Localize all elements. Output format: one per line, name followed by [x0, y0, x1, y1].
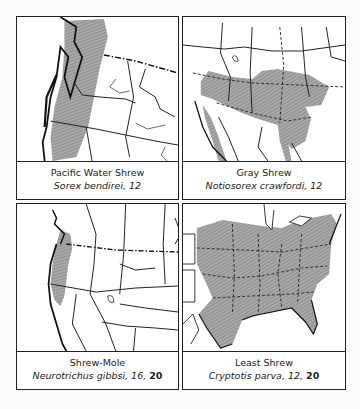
- page-reference: 12: [129, 180, 141, 191]
- caption-least-shrew: Least Shrew Cryptotis parva, 12, 20: [183, 349, 345, 389]
- map-panel-gray-shrew: Gray Shrew Notiosorex crawfordi, 12: [182, 16, 346, 200]
- scientific-name: Notiosorex crawfordi: [206, 180, 305, 191]
- range-map-pacific-water-shrew: [17, 17, 178, 162]
- common-name: Gray Shrew: [183, 167, 345, 179]
- common-name: Shrew-Mole: [17, 357, 178, 369]
- page-reference: 12: [310, 180, 322, 191]
- common-name: Pacific Water Shrew: [17, 167, 178, 179]
- caption-shrew-mole: Shrew-Mole Neurotrichus gibbsi, 16, 20: [17, 349, 178, 389]
- plate-reference: 20: [306, 370, 319, 381]
- range-map-shrew-mole: [17, 204, 178, 352]
- scientific-name-line: Neurotrichus gibbsi, 16, 20: [17, 369, 178, 382]
- scientific-name-line: Cryptotis parva, 12, 20: [183, 369, 345, 382]
- map-panel-pacific-water-shrew: Pacific Water Shrew Sorex bendirei, 12: [16, 16, 179, 200]
- caption-gray-shrew: Gray Shrew Notiosorex crawfordi, 12: [183, 159, 345, 199]
- page-reference: 16: [131, 370, 143, 381]
- page-reference: 12: [288, 370, 300, 381]
- scientific-name-line: Notiosorex crawfordi, 12: [183, 179, 345, 192]
- caption-pacific-water-shrew: Pacific Water Shrew Sorex bendirei, 12: [17, 159, 178, 199]
- scientific-name: Cryptotis parva: [209, 370, 282, 381]
- range-map-least-shrew: [183, 204, 345, 352]
- scientific-name-line: Sorex bendirei, 12: [17, 179, 178, 192]
- scientific-name: Neurotrichus gibbsi: [33, 370, 126, 381]
- map-panel-least-shrew: Least Shrew Cryptotis parva, 12, 20: [182, 203, 346, 390]
- map-panel-shrew-mole: Shrew-Mole Neurotrichus gibbsi, 16, 20: [16, 203, 179, 390]
- common-name: Least Shrew: [183, 357, 345, 369]
- range-map-gray-shrew: [183, 17, 345, 162]
- plate-reference: 20: [149, 370, 162, 381]
- scientific-name: Sorex bendirei: [54, 180, 123, 191]
